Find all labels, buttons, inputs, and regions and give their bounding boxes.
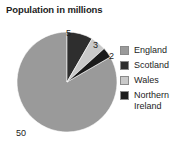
legend-label-northern-ireland-line1: Northern	[134, 90, 169, 100]
legend-swatch-england	[120, 46, 129, 55]
legend-label-wales: Wales	[134, 75, 159, 85]
slice-label-wales: 3	[93, 40, 98, 50]
chart-legend: England Scotland Wales Northern Ireland	[120, 45, 193, 116]
legend-swatch-scotland	[120, 61, 129, 70]
legend-item-scotland: Scotland	[120, 60, 193, 71]
pie-chart: Population in millions 5 3 2 50 England …	[0, 0, 193, 141]
legend-label-scotland: Scotland	[134, 60, 169, 70]
slice-label-england: 50	[16, 128, 26, 138]
slice-group	[17, 32, 117, 132]
slice-label-northern-ireland: 2	[109, 51, 114, 61]
slice-label-scotland: 5	[66, 28, 71, 38]
legend-label-northern-ireland-line2: Ireland	[134, 101, 162, 111]
legend-item-england: England	[120, 45, 193, 56]
pie-plot-area: 5 3 2 50	[0, 14, 122, 141]
legend-item-northern-ireland: Northern Ireland	[120, 90, 193, 111]
legend-swatch-northern-ireland	[120, 91, 129, 100]
pie-slices-svg	[0, 14, 122, 141]
legend-item-wales: Wales	[120, 75, 193, 86]
legend-label-england: England	[134, 45, 167, 55]
legend-swatch-wales	[120, 76, 129, 85]
